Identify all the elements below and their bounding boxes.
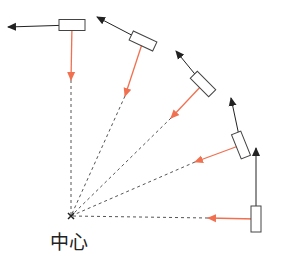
center-label: 中心 bbox=[50, 227, 88, 254]
circular-motion-diagram bbox=[0, 0, 285, 268]
velocity-arrows bbox=[8, 17, 256, 219]
radius-line bbox=[71, 216, 208, 218]
centripetal-force-arrow bbox=[195, 145, 241, 162]
block bbox=[231, 131, 250, 159]
radius-line bbox=[71, 118, 171, 216]
centripetal-force-arrow bbox=[171, 84, 203, 118]
blocks bbox=[59, 20, 261, 233]
centripetal-force-arrow bbox=[208, 218, 256, 219]
block bbox=[59, 20, 85, 31]
radius-line bbox=[71, 96, 125, 216]
centripetal-force-arrow bbox=[71, 25, 72, 80]
centripetal-force-arrow bbox=[125, 41, 143, 96]
block bbox=[251, 206, 261, 232]
radius-line bbox=[71, 162, 195, 216]
centripetal-force-arrows bbox=[71, 25, 256, 219]
block bbox=[129, 31, 157, 51]
